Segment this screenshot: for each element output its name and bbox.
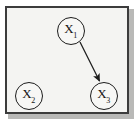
node-x2-label: X2	[22, 87, 35, 104]
node-x3[interactable]: X3	[90, 82, 118, 110]
nodes-layer: X1 X2 X3	[0, 0, 137, 126]
node-x1-label: X1	[64, 22, 77, 39]
node-x2-subscript: 2	[31, 96, 35, 105]
node-x1[interactable]: X1	[57, 17, 85, 45]
node-x2[interactable]: X2	[15, 82, 43, 110]
graph-figure: X1 X2 X3	[0, 0, 137, 126]
node-x1-subscript: 1	[73, 31, 77, 40]
node-x3-label: X3	[97, 87, 110, 104]
node-x3-subscript: 3	[106, 96, 110, 105]
